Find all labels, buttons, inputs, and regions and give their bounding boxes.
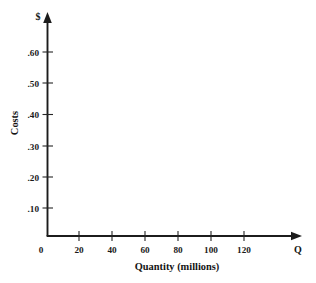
- y-axis-title: Costs: [9, 111, 20, 135]
- x-axis-title: Quantity (millions): [135, 261, 220, 273]
- y-tick-label-10: .10: [28, 204, 40, 214]
- x-tick-label-20: 20: [74, 245, 84, 255]
- y-axis-symbol-label: $: [36, 11, 41, 22]
- cost-quantity-graph: .60 .50 .40 .30 .20 .10 0 20 40 60 80 10…: [0, 0, 316, 283]
- y-tick-label-20: .20: [28, 173, 40, 183]
- x-tick-label-80: 80: [173, 245, 183, 255]
- x-tick-label-120: 120: [237, 245, 251, 255]
- x-tick-label-40: 40: [107, 245, 117, 255]
- y-tick-label-50: .50: [28, 79, 40, 89]
- x-tick-label-0: 0: [39, 245, 44, 255]
- plot-area: [47, 13, 302, 236]
- y-tick-label-30: .30: [28, 142, 40, 152]
- y-tick-label-40: .40: [28, 110, 40, 120]
- x-tick-label-100: 100: [204, 245, 218, 255]
- x-tick-label-60: 60: [140, 245, 150, 255]
- chart-container: .60 .50 .40 .30 .20 .10 0 20 40 60 80 10…: [0, 0, 316, 283]
- y-tick-label-60: .60: [28, 48, 40, 58]
- x-axis-symbol-label: Q: [294, 244, 302, 255]
